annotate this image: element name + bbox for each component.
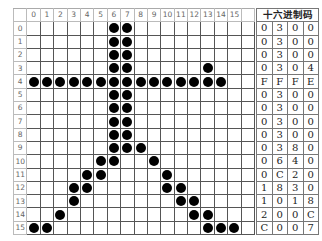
grid-cell [228, 195, 241, 208]
dot-icon [69, 77, 79, 87]
dot-icon [229, 223, 239, 233]
grid-cell [241, 128, 254, 141]
grid-cell [121, 62, 134, 75]
grid-cell [94, 48, 107, 61]
grid-cell [161, 22, 174, 35]
grid-cell [228, 221, 241, 234]
grid-cell [228, 35, 241, 48]
column-header: 1 [40, 9, 53, 22]
dot-icon [109, 63, 119, 73]
hex-digit: 0 [257, 48, 273, 61]
hex-row: 0300 [257, 22, 319, 35]
grid-cell [214, 62, 227, 75]
hex-digit: 1 [257, 181, 273, 194]
grid-cell [67, 221, 80, 234]
grid-cell [161, 141, 174, 154]
grid-cell [134, 88, 147, 101]
grid-cell [147, 75, 160, 88]
hex-row: 0300 [257, 35, 319, 48]
hex-row: 1018 [257, 195, 319, 208]
grid-cell [94, 88, 107, 101]
column-header: 7 [121, 9, 134, 22]
hex-digit: 0 [257, 102, 273, 115]
grid-cell [40, 115, 53, 128]
dot-icon [82, 183, 92, 193]
grid-cell [147, 128, 160, 141]
grid-cell [161, 128, 174, 141]
grid-cell [228, 115, 241, 128]
grid-cell [188, 195, 201, 208]
grid-cell [174, 102, 187, 115]
grid-cell [228, 22, 241, 35]
grid-cell [54, 88, 67, 101]
grid-cell [94, 195, 107, 208]
grid-row: 3 [14, 62, 255, 75]
column-header: 9 [147, 9, 160, 22]
grid-cell [27, 22, 40, 35]
hex-digit: 0 [288, 115, 304, 128]
grid-cell [107, 208, 120, 221]
column-header: 14 [214, 9, 227, 22]
hex-digit: 0 [257, 115, 273, 128]
grid-cell [201, 168, 214, 181]
grid-cell [228, 128, 241, 141]
grid-cell [201, 22, 214, 35]
grid-row: 7 [14, 115, 255, 128]
dot-icon [109, 23, 119, 33]
grid-cell [214, 102, 227, 115]
hex-digit: 0 [303, 128, 319, 141]
grid-cell [121, 22, 134, 35]
grid-cell [27, 48, 40, 61]
grid-cell [40, 221, 53, 234]
grid-cell [107, 221, 120, 234]
grid-cell [147, 102, 160, 115]
grid-cell [94, 115, 107, 128]
grid-cell [201, 35, 214, 48]
grid-cell [94, 155, 107, 168]
grid-cell [174, 88, 187, 101]
grid-cell [241, 88, 254, 101]
dot-icon [203, 63, 213, 73]
grid-cell [214, 195, 227, 208]
row-header: 1 [14, 35, 27, 48]
grid-cell [94, 102, 107, 115]
grid-cell [80, 35, 93, 48]
dot-icon [82, 170, 92, 180]
hex-digit: 0 [257, 141, 273, 154]
grid-cell [67, 168, 80, 181]
grid-cell [121, 221, 134, 234]
row-header: 9 [14, 141, 27, 154]
grid-cell [241, 62, 254, 75]
grid-cell [67, 102, 80, 115]
grid-cell [80, 88, 93, 101]
column-header: 4 [80, 9, 93, 22]
grid-cell [107, 48, 120, 61]
grid-cell [27, 168, 40, 181]
column-header [241, 9, 254, 22]
dot-icon [55, 77, 65, 87]
row-header: 13 [14, 195, 27, 208]
hex-digit: 0 [303, 88, 319, 101]
grid-cell [228, 102, 241, 115]
hex-digit: C [257, 221, 273, 234]
grid-cell [27, 208, 40, 221]
dot-icon [82, 77, 92, 87]
hex-row: 0300 [257, 102, 319, 115]
grid-cell [107, 35, 120, 48]
grid-cell [80, 128, 93, 141]
grid-cell [161, 181, 174, 194]
dot-icon [176, 196, 186, 206]
grid-cell [107, 141, 120, 154]
hex-row: 0300 [257, 115, 319, 128]
grid-cell [27, 155, 40, 168]
grid-cell [67, 141, 80, 154]
hex-digit: 3 [288, 181, 304, 194]
column-header: 15 [228, 9, 241, 22]
grid-cell [147, 155, 160, 168]
grid-cell [121, 115, 134, 128]
grid-cell [174, 48, 187, 61]
hex-digit: 0 [288, 48, 304, 61]
grid-cell [40, 62, 53, 75]
hex-digit: 3 [272, 62, 288, 75]
grid-cell [201, 62, 214, 75]
